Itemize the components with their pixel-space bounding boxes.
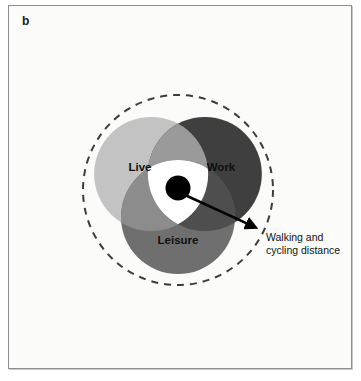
figure-panel-b: b [0, 0, 361, 381]
hub-dot [166, 176, 191, 201]
set-label-leisure: Leisure [158, 234, 199, 246]
set-label-work: Work [207, 161, 236, 173]
annotation-line-2: cycling distance [266, 244, 340, 256]
venn-diagram: Live Work Leisure Walking and cycling di… [0, 0, 361, 381]
annotation-line-1: Walking and [266, 231, 324, 243]
set-label-live: Live [128, 161, 151, 173]
